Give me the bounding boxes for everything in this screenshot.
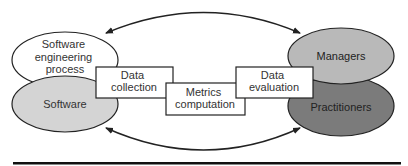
label-line: Data bbox=[121, 69, 145, 81]
label-line: computation bbox=[175, 98, 235, 110]
practitioners-label: Practitioners bbox=[310, 101, 372, 113]
label-line: collection bbox=[111, 81, 157, 93]
metrics-process-diagram: Software engineering process Software Pr… bbox=[0, 0, 408, 166]
box-data-evaluation: Data evaluation bbox=[236, 67, 313, 98]
label-line: engineering bbox=[35, 51, 93, 63]
label-line: Data bbox=[261, 69, 285, 81]
bottom-rule bbox=[13, 162, 401, 165]
label-line: Metrics bbox=[186, 86, 222, 98]
bottom-feedback-arrow bbox=[106, 128, 300, 150]
box-metrics-computation: Metrics computation bbox=[166, 83, 245, 115]
top-feedback-arrow bbox=[106, 13, 300, 34]
box-data-collection: Data collection bbox=[96, 67, 173, 98]
managers-label: Managers bbox=[317, 50, 366, 62]
label-line: Software bbox=[42, 38, 85, 50]
label-line: evaluation bbox=[249, 81, 299, 93]
label-line: process bbox=[46, 63, 85, 75]
software-label: Software bbox=[43, 98, 86, 110]
